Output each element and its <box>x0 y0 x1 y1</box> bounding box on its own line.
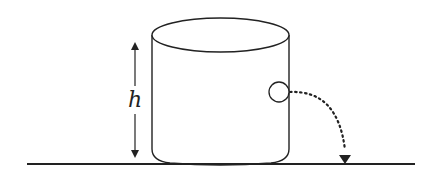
jet-trajectory <box>290 92 345 150</box>
container-top <box>152 18 289 52</box>
jet-arrowhead-icon <box>339 155 351 164</box>
tank-diagram: h <box>0 0 437 180</box>
container-body <box>152 35 289 165</box>
height-label: h <box>128 87 142 112</box>
hole <box>269 82 289 102</box>
